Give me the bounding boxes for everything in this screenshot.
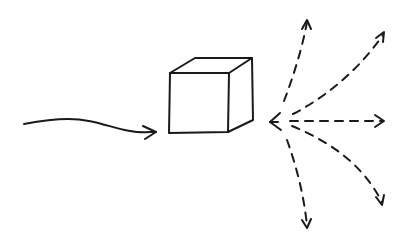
scatter-ray-down bbox=[287, 140, 311, 228]
incident-ray-arrow bbox=[24, 119, 156, 139]
scatter-origin-arrowhead bbox=[270, 113, 281, 130]
scatter-ray-up bbox=[284, 20, 311, 101]
scatter-ray-right bbox=[290, 115, 384, 127]
scatter-ray-down-right bbox=[292, 126, 384, 205]
diagram-canvas: Light scattering off a cube bbox=[0, 0, 405, 248]
cube bbox=[169, 58, 253, 133]
scatter-ray-up-right bbox=[293, 32, 384, 114]
